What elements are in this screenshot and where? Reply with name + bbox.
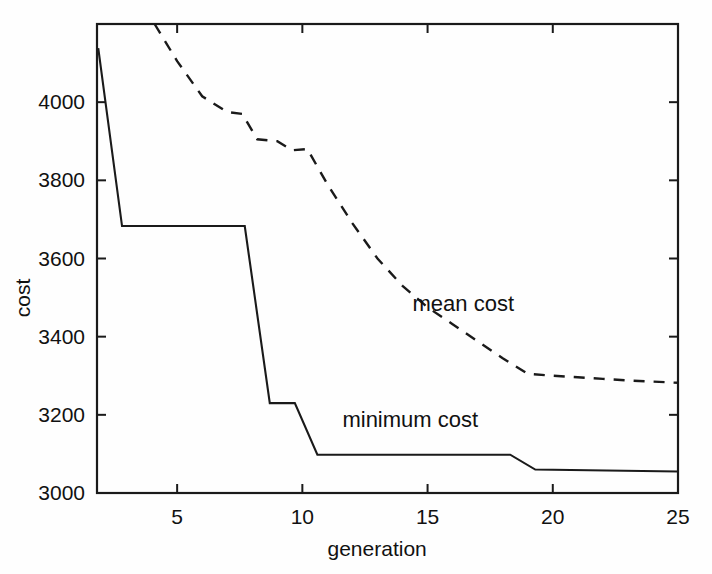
- y-tick-label: 3200: [0, 403, 85, 427]
- minimum-cost-annotation: minimum cost: [342, 407, 478, 433]
- y-axis-title: cost: [11, 263, 35, 333]
- x-axis-title: generation: [328, 537, 427, 561]
- chart-background: [0, 0, 712, 574]
- x-tick-label: 25: [666, 505, 689, 529]
- x-tick-label: 20: [541, 505, 564, 529]
- x-tick-label: 10: [291, 505, 314, 529]
- y-tick-label: 3800: [0, 168, 85, 192]
- chart-page: 300032003400360038004000 510152025 cost …: [0, 0, 712, 574]
- mean-cost-annotation: mean cost: [413, 291, 515, 317]
- y-tick-label: 3000: [0, 481, 85, 505]
- x-tick-label: 5: [171, 505, 183, 529]
- cost-vs-generation-chart: [0, 0, 712, 574]
- y-tick-label: 4000: [0, 90, 85, 114]
- x-tick-label: 15: [416, 505, 439, 529]
